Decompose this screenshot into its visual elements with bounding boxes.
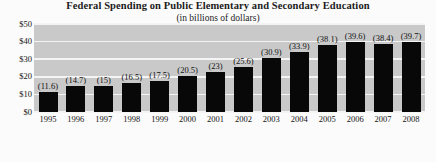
bar-slot: (38.1)	[313, 24, 341, 112]
bar-value-label: (20.5)	[177, 66, 198, 75]
bar[interactable]	[66, 86, 85, 112]
x-axis-tick-label: 2008	[397, 114, 425, 124]
x-axis-tick-label: 1999	[146, 114, 174, 124]
bar-value-label: (39.7)	[401, 32, 422, 41]
bar-slot: (39.6)	[341, 24, 369, 112]
bar[interactable]	[150, 81, 169, 112]
source-note	[18, 155, 418, 162]
y-axis-tick-label: $40	[2, 37, 32, 46]
bar[interactable]	[39, 92, 58, 112]
bar[interactable]	[318, 45, 337, 112]
bar-slot: (23)	[202, 24, 230, 112]
bar-value-label: (25.6)	[233, 57, 254, 66]
bar-value-label: (16.5)	[121, 73, 142, 82]
bar-value-label: (17.5)	[149, 71, 170, 80]
y-axis-tick-label: $30	[2, 55, 32, 64]
bar-slot: (16.5)	[118, 24, 146, 112]
bar-value-label: (38.1)	[317, 35, 338, 44]
bar-value-label: (33.9)	[289, 42, 310, 51]
chart-title-block: Federal Spending on Public Elementary an…	[0, 0, 436, 24]
bar-value-label: (14.7)	[66, 76, 87, 85]
bar[interactable]	[262, 58, 281, 112]
bar[interactable]	[346, 42, 365, 112]
bar-slot: (33.9)	[285, 24, 313, 112]
bars-layer: (11.6)(14.7)(15)(16.5)(17.5)(20.5)(23)(2…	[34, 24, 425, 112]
bar[interactable]	[178, 76, 197, 112]
bar[interactable]	[290, 52, 309, 112]
bar-value-label: (39.6)	[345, 32, 366, 41]
x-axis-tick-label: 2002	[230, 114, 258, 124]
bar-slot: (15)	[90, 24, 118, 112]
y-axis-tick-label: $50	[2, 20, 32, 29]
chart-subtitle: (in billions of dollars)	[0, 12, 436, 24]
chart-figure: Federal Spending on Public Elementary an…	[0, 0, 436, 162]
bar-slot: (39.7)	[397, 24, 425, 112]
bar-slot: (11.6)	[34, 24, 62, 112]
x-axis: 1995199619971998199920002001200220032004…	[34, 114, 425, 128]
bar[interactable]	[94, 86, 113, 112]
page-title: Federal Spending on Public Elementary an…	[0, 0, 436, 12]
bar-value-label: (15)	[97, 76, 111, 85]
bar-slot: (20.5)	[174, 24, 202, 112]
x-axis-tick-label: 2003	[257, 114, 285, 124]
bar-value-label: (38.4)	[373, 34, 394, 43]
x-axis-tick-label: 1995	[34, 114, 62, 124]
x-axis-tick-label: 2001	[202, 114, 230, 124]
x-axis-tick-label: 1997	[90, 114, 118, 124]
y-axis-tick-label: $20	[2, 72, 32, 81]
x-axis-tick-label: 2007	[369, 114, 397, 124]
y-axis-tick-label: $0	[2, 108, 32, 117]
bar-value-label: (23)	[208, 62, 222, 71]
y-axis: $0$10$20$30$40$50	[0, 0, 32, 162]
bar-value-label: (30.9)	[261, 48, 282, 57]
x-axis-tick-label: 1996	[62, 114, 90, 124]
bar[interactable]	[374, 44, 393, 112]
bar[interactable]	[402, 42, 421, 112]
x-axis-tick-label: 2000	[174, 114, 202, 124]
x-axis-tick-label: 2006	[341, 114, 369, 124]
bar-slot: (14.7)	[62, 24, 90, 112]
bar[interactable]	[234, 67, 253, 112]
bar[interactable]	[122, 83, 141, 112]
bar-slot: (38.4)	[369, 24, 397, 112]
bar-slot: (30.9)	[257, 24, 285, 112]
bar-slot: (25.6)	[230, 24, 258, 112]
bar-value-label: (11.6)	[38, 82, 58, 91]
x-axis-tick-label: 2004	[285, 114, 313, 124]
y-axis-tick-label: $10	[2, 90, 32, 99]
x-axis-tick-label: 2005	[313, 114, 341, 124]
x-axis-tick-label: 1998	[118, 114, 146, 124]
bar-slot: (17.5)	[146, 24, 174, 112]
bar[interactable]	[206, 72, 225, 112]
